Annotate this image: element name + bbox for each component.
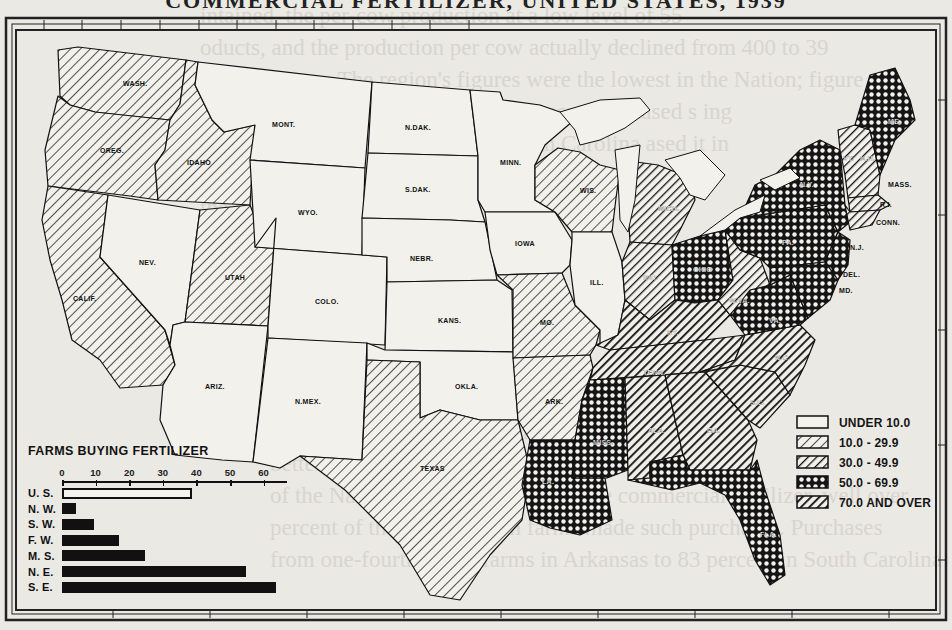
label-tenn: TENN. [643,369,666,376]
label-va: VA. [769,317,781,324]
label-sc: S.C. [750,399,765,406]
label-del: DEL. [843,271,860,278]
axis-tick-label: 40 [191,467,202,478]
label-vt: VT. [843,155,854,162]
label-mont: MONT. [272,121,295,128]
bar [62,535,119,546]
chart-title: FARMS BUYING FERTILIZER [28,444,209,458]
axis-tick-label: 50 [225,467,236,478]
bar [62,488,192,499]
swatch-under-10 [797,416,828,428]
legend-item-70-over: 70.0 AND OVER [839,493,931,513]
bar-row: S. W. [28,517,94,531]
label-ky: KY. [667,329,679,336]
label-pa: PA. [782,239,794,246]
label-fla: FLA. [760,531,777,538]
bar [62,519,94,530]
swatch-50-69 [797,476,828,488]
label-iowa: IOWA [515,240,535,247]
bar-label: U. S. [28,487,62,499]
label-ndak: N.DAK. [405,124,431,131]
label-idaho: IDAHO [187,159,211,166]
bar-row: N. E. [28,565,246,579]
label-wash: WASH. [123,80,147,87]
label-texas: TEXAS [420,465,445,472]
state-florida [628,455,785,585]
farms-buying-fertilizer-chart: FARMS BUYING FERTILIZER 0102030405060 U.… [28,444,209,458]
label-mass: MASS. [888,181,912,188]
chart-x-axis: 0102030405060 [62,466,292,486]
legend-item-10-29: 10.0 - 29.9 [839,433,931,453]
chart-bars: U. S.N. W.S. W.F. W.M. S.N. E.S. E. [28,486,308,598]
legend-swatches [797,416,828,508]
bar [62,582,276,593]
bar-label: S. E. [28,581,62,593]
swatch-70-over [797,496,828,508]
bar [62,550,145,561]
label-md: MD. [839,287,853,294]
label-ohio: OHIO [693,266,712,273]
legend-item-under-10: UNDER 10.0 [839,413,931,433]
label-la: LA. [542,478,554,485]
label-ariz: ARIZ. [205,383,225,390]
bar [62,503,76,514]
bar [62,566,246,577]
bar-label: N. W. [28,503,62,515]
label-me: ME. [888,118,901,125]
axis-tick-label: 30 [158,467,169,478]
label-mich: MICH. [658,205,679,212]
label-conn: CONN. [876,219,900,226]
label-oreg: OREG. [100,147,124,154]
swatch-30-49 [797,456,828,468]
label-miss: MISS. [593,439,614,446]
bar-row: M. S. [28,549,145,563]
label-ill: ILL. [590,279,604,286]
label-ala: ALA. [648,427,666,434]
label-okla: OKLA. [455,383,478,390]
label-utah: UTAH [225,274,245,281]
label-minn: MINN. [500,159,521,166]
label-nebr: NEBR. [410,255,433,262]
label-nev: NEV. [139,259,156,266]
label-wis: WIS. [580,187,596,194]
label-nc: N.C. [775,354,790,361]
bar-label: N. E. [28,566,62,578]
label-nmex: N.MEX. [295,398,321,405]
state-north-dakota [368,82,478,156]
bar-label: S. W. [28,518,62,530]
bar-row: S. E. [28,580,276,594]
state-arizona [160,322,268,462]
bar-row: U. S. [28,486,192,500]
label-ri: R.I. [880,201,892,208]
state-kansas [385,280,513,352]
label-calif: CALIF. [73,295,97,302]
bar-label: M. S. [28,550,62,562]
axis-tick-label: 20 [124,467,135,478]
label-colo: COLO. [315,298,339,305]
label-ny: N.Y. [800,181,814,188]
bar-row: N. W. [28,502,76,516]
label-nj: N.J. [850,244,864,251]
map-legend: UNDER 10.0 10.0 - 29.9 30.0 - 49.9 50.0 … [839,413,931,513]
legend-item-30-49: 30.0 - 49.9 [839,453,931,473]
label-ind: IND. [643,274,658,281]
bar-row: F. W. [28,533,119,547]
label-ga: GA. [707,427,720,434]
legend-item-50-69: 50.0 - 69.9 [839,473,931,493]
label-mo: MO. [540,319,554,326]
label-wva: W.VA. [729,297,750,304]
label-kans: KANS. [438,317,461,324]
lake-superior [560,98,650,145]
label-ark: ARK. [545,398,563,405]
label-nh: N.H. [860,155,875,162]
axis-tick-label: 10 [90,467,101,478]
label-wyo: WYO. [298,209,318,216]
axis-tick-label: 60 [258,467,269,478]
swatch-10-29 [797,436,828,448]
axis-tick-label: 0 [59,467,64,478]
bar-label: F. W. [28,534,62,546]
label-sdak: S.DAK. [405,186,431,193]
